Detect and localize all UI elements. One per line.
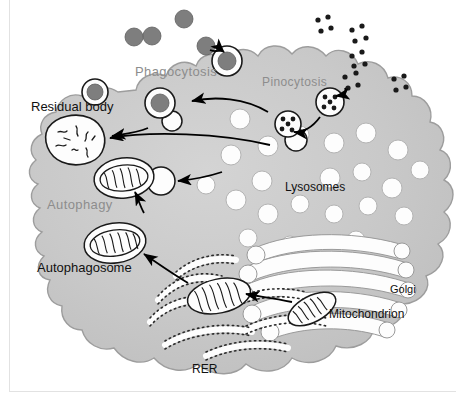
label-autophagosome: Autophagosome xyxy=(37,260,132,275)
engulfed-particle xyxy=(87,84,103,100)
label-golgi: Golgi xyxy=(390,283,416,295)
residual-body xyxy=(46,115,105,165)
extracellular-particle xyxy=(175,10,193,28)
lysosome xyxy=(239,229,257,247)
extracellular-particle xyxy=(197,37,215,55)
label-residual-body: Residual body xyxy=(31,99,113,114)
lysosome xyxy=(226,190,246,210)
lysosome xyxy=(356,123,376,143)
label-pinocytosis: Pinocytosis xyxy=(262,75,327,89)
lysosome xyxy=(324,133,344,153)
extracellular-particle-group xyxy=(125,10,215,55)
lysosome xyxy=(359,197,377,215)
lysosome xyxy=(325,205,343,223)
lysosome xyxy=(291,195,309,213)
lysosome xyxy=(258,204,278,224)
particle-cluster xyxy=(349,23,368,43)
extracellular-particle xyxy=(125,28,143,46)
label-phagocytosis: Phagocytosis xyxy=(135,64,217,79)
lysosome xyxy=(252,171,272,191)
lysosome xyxy=(221,145,241,165)
lysosome xyxy=(382,178,402,198)
particle-cluster xyxy=(315,14,333,33)
label-mitochondrion: Mitochondrion xyxy=(329,307,404,321)
engulfed-particle xyxy=(151,94,169,112)
lysosome xyxy=(230,109,250,129)
lysosome xyxy=(258,136,278,156)
extracellular-particle xyxy=(143,27,161,45)
label-rer: RER xyxy=(192,362,217,376)
lysosome xyxy=(353,163,371,181)
figure-frame: Phagocytosis Pinocytosis Residual body L… xyxy=(0,0,464,398)
cell-diagram: Phagocytosis Pinocytosis Residual body L… xyxy=(0,0,464,398)
label-lysosomes: Lysosomes xyxy=(285,180,345,194)
lysosome xyxy=(411,161,429,179)
engulfed-particle xyxy=(218,52,236,70)
lysosome xyxy=(395,207,413,225)
lysosome xyxy=(388,140,408,160)
label-autophagy: Autophagy xyxy=(47,197,113,212)
